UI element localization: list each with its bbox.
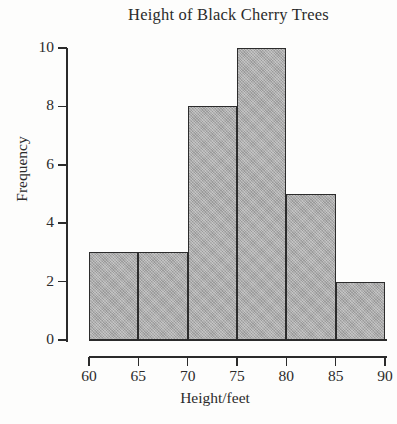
x-axis-tick xyxy=(88,357,90,366)
x-axis-tick-label: 70 xyxy=(163,367,213,385)
histogram-bar xyxy=(237,48,286,340)
x-axis-tick xyxy=(138,357,140,366)
y-axis-tick-label: 8 xyxy=(14,96,54,114)
histogram-bar xyxy=(336,282,385,340)
y-axis-line xyxy=(66,48,68,342)
histogram-bar xyxy=(138,252,187,340)
x-axis-tick-label: 80 xyxy=(261,367,311,385)
bar-baseline xyxy=(89,339,387,341)
x-axis-tick-label: 85 xyxy=(311,367,361,385)
histogram-bar xyxy=(188,106,237,340)
histogram-figure: Height of Black Cherry Trees Frequency H… xyxy=(0,0,397,424)
y-axis-tick xyxy=(58,164,67,166)
x-axis-tick xyxy=(187,357,189,366)
x-axis-tick-label: 60 xyxy=(64,367,114,385)
x-axis-tick-label: 75 xyxy=(212,367,262,385)
y-axis-tick-label: 10 xyxy=(14,38,54,56)
x-axis-tick xyxy=(384,357,386,366)
y-axis-tick-label: 2 xyxy=(14,272,54,290)
y-axis-tick-label: 0 xyxy=(14,330,54,348)
y-axis-tick xyxy=(58,222,67,224)
y-axis-tick-label: 6 xyxy=(14,155,54,173)
histogram-bar xyxy=(89,252,138,340)
plot-area: 024681060657075808590 xyxy=(0,0,397,424)
y-axis-tick-label: 4 xyxy=(14,213,54,231)
x-axis-tick xyxy=(335,357,337,366)
y-axis-tick xyxy=(58,47,67,49)
x-axis-tick xyxy=(286,357,288,366)
y-axis-tick xyxy=(58,106,67,108)
x-axis-line xyxy=(89,356,387,358)
x-axis-tick-label: 65 xyxy=(113,367,163,385)
x-axis-tick-label: 90 xyxy=(360,367,397,385)
x-axis-tick xyxy=(236,357,238,366)
y-axis-tick xyxy=(58,281,67,283)
bars-layer xyxy=(0,0,397,424)
histogram-bar xyxy=(286,194,335,340)
y-axis-tick xyxy=(58,339,67,341)
